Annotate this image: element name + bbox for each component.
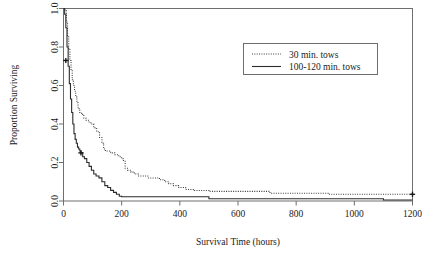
survival-chart-figure: 020040060080010001200 0.00.20.40.60.81.0… [0,0,424,263]
x-tick-label: 1200 [403,209,422,219]
x-tick-label: 1000 [345,209,364,219]
legend-label-100-120-min-tows: 100-120 min. tows [289,62,361,72]
x-axis-title: Survival Time (hours) [196,237,280,248]
y-tick-label: 0.2 [50,156,60,168]
x-tick-label: 400 [173,209,188,219]
x-tick-label: 200 [115,209,130,219]
chart-canvas: 020040060080010001200 0.00.20.40.60.81.0… [0,0,424,263]
x-tick-label: 600 [231,209,246,219]
legend-label-30-min-tows: 30 min. tows [289,50,339,60]
chart-legend: 30 min. tows 100-120 min. tows [244,44,378,75]
y-tick-label: 0.4 [50,118,60,130]
y-tick-label: 0.6 [50,79,60,91]
y-axis-title: Proportion Surviving [9,65,19,146]
x-tick-label: 0 [61,209,66,219]
y-tick-label: 0.0 [50,195,60,207]
y-tick-label: 1.0 [50,2,60,14]
x-tick-label: 800 [289,209,304,219]
y-tick-label: 0.8 [50,41,60,53]
